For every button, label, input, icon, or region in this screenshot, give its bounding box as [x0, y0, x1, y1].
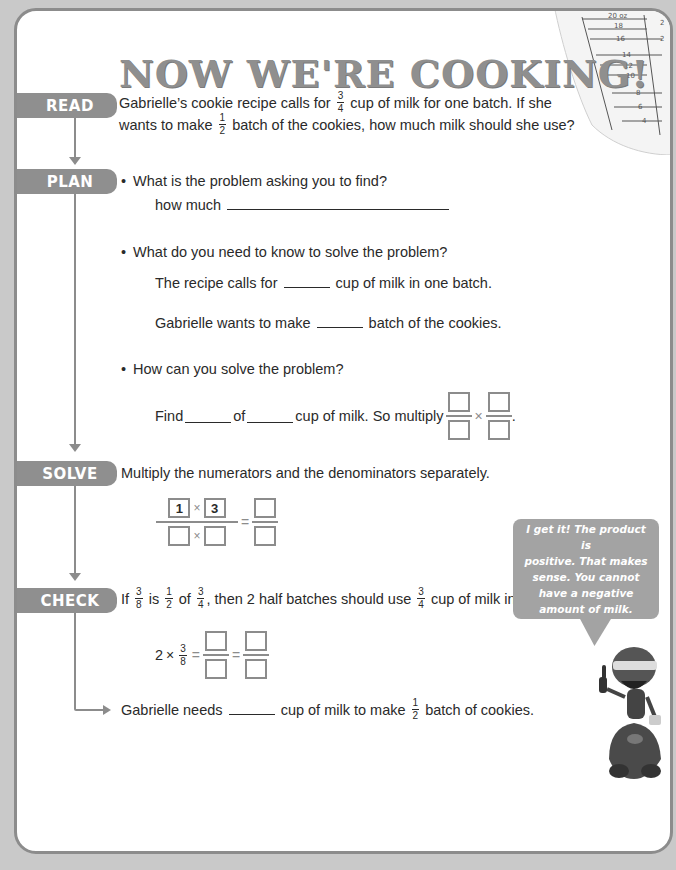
worksheet-card: 20 oz 18 16 14 12 10 8 6 4 2 2 NOW WE'RE…: [14, 8, 673, 854]
step-tab-solve: SOLVE: [17, 461, 117, 486]
svg-text:20 oz: 20 oz: [608, 12, 627, 20]
plan-answer-1: how much: [155, 195, 451, 215]
svg-text:4: 4: [642, 117, 647, 125]
answer-blank[interactable]: [227, 196, 449, 210]
page-title: NOW WE'RE COOKING!: [119, 51, 649, 96]
speech-bubble: I get it! The product is positive. That …: [513, 519, 659, 619]
svg-text:2: 2: [660, 19, 664, 27]
svg-text:18: 18: [614, 22, 623, 30]
plan-question-1: What is the problem asking you to find?: [121, 171, 387, 191]
fraction-input: [486, 392, 512, 440]
read-line-2: wants to make 12 batch of the cookies, h…: [119, 115, 575, 138]
denominator-box[interactable]: [245, 659, 267, 679]
fraction-input: [203, 631, 229, 679]
flow-line: [74, 601, 76, 709]
denominator-box[interactable]: [448, 420, 470, 440]
svg-text:2: 2: [660, 35, 664, 43]
plan-answer-2a: The recipe calls for cup of milk in one …: [155, 273, 492, 293]
answer-blank[interactable]: [229, 701, 275, 715]
speech-bubble-text: I get it! The product is positive. That …: [521, 521, 651, 617]
numerator-box[interactable]: [245, 631, 267, 651]
answer-blank[interactable]: [185, 409, 231, 423]
step-tab-check: CHECK: [17, 588, 117, 613]
step-tab-read: READ: [17, 93, 117, 118]
svg-text:6: 6: [638, 103, 643, 111]
fraction-input: [243, 631, 269, 679]
denominator-box[interactable]: [254, 526, 276, 546]
flow-line: [74, 473, 76, 577]
numerator-box[interactable]: [254, 498, 276, 518]
numerator-box-1[interactable]: 1: [168, 498, 190, 518]
arrow-down-icon: [69, 444, 81, 452]
robot-mascot-icon: [579, 639, 673, 789]
answer-blank[interactable]: [317, 314, 363, 328]
flow-line: [74, 181, 76, 447]
arrow-right-icon: [103, 705, 111, 715]
fraction-input: [446, 392, 472, 440]
numerator-box[interactable]: [448, 392, 470, 412]
arrow-down-icon: [69, 573, 81, 581]
numerator-box[interactable]: [205, 631, 227, 651]
check-statement: If 38 is 12 of 34, then 2 half batches s…: [121, 589, 538, 612]
plan-answer-3: Find of cup of milk. So multiply × .: [155, 392, 516, 440]
plan-question-3: How can you solve the problem?: [121, 359, 343, 379]
denominator-box-2[interactable]: [204, 526, 226, 546]
conclusion-statement: Gabrielle needs cup of milk to make 12 b…: [121, 700, 534, 723]
fraction: 12: [219, 113, 227, 136]
flow-line: [74, 709, 104, 711]
numerator-box[interactable]: [488, 392, 510, 412]
answer-blank[interactable]: [284, 274, 330, 288]
plan-question-2: What do you need to know to solve the pr…: [121, 242, 447, 262]
arrow-down-icon: [69, 157, 81, 165]
fraction-input: [252, 498, 278, 546]
plan-answer-2b: Gabrielle wants to make batch of the coo…: [155, 313, 502, 333]
denominator-box[interactable]: [488, 420, 510, 440]
answer-blank[interactable]: [247, 409, 293, 423]
denominator-box[interactable]: [205, 659, 227, 679]
read-line-1: Gabrielle’s cookie recipe calls for 34 c…: [119, 93, 552, 116]
solve-equation: 1 × 3 × =: [156, 498, 278, 546]
denominator-box-1[interactable]: [168, 526, 190, 546]
svg-text:16: 16: [616, 35, 625, 43]
solve-instruction: Multiply the numerators and the denomina…: [121, 463, 490, 483]
check-equation: 2 × 38 = =: [155, 631, 269, 679]
fraction: 34: [337, 91, 345, 114]
step-tab-plan: PLAN: [17, 169, 117, 194]
numerator-box-2[interactable]: 3: [204, 498, 226, 518]
